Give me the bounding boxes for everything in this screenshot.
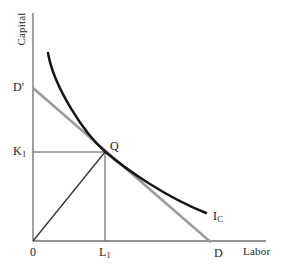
isoquant-isocost-diagram: Capital Labor 0 D' K1 Q L1 D IC: [0, 0, 283, 272]
x-axis-label: Labor: [243, 246, 270, 257]
l1-label: L1: [99, 246, 111, 260]
isoquant-curve: [48, 53, 206, 213]
d-label: D: [214, 247, 223, 259]
d-prime-label: D': [13, 81, 24, 93]
y-axis-label: Capital: [16, 12, 27, 45]
diagram-canvas: [0, 0, 283, 272]
origin-label: 0: [30, 246, 36, 258]
k1-label: K1: [13, 145, 26, 159]
l1-label-main: L: [99, 245, 107, 259]
isoquant-label-sub: C: [217, 214, 223, 224]
q-label: Q: [110, 140, 119, 152]
isoquant-label: IC: [213, 210, 223, 224]
k1-label-sub: 1: [22, 149, 26, 159]
l1-label-sub: 1: [107, 250, 111, 260]
k1-label-main: K: [13, 144, 22, 158]
origin-ray-line: [33, 152, 105, 241]
